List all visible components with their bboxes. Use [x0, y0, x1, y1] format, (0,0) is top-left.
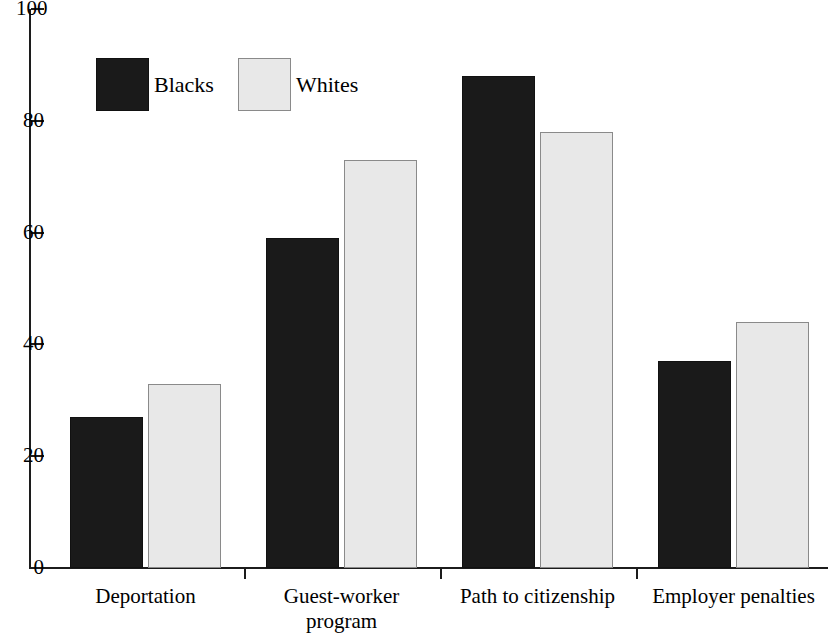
category-label: Deportation [36, 584, 256, 609]
bar-chart: 020406080100 DeportationGuest-worker pro… [0, 0, 834, 638]
bar [736, 322, 809, 568]
legend-entry-blacks: Blacks [96, 58, 214, 111]
bar [462, 76, 535, 568]
legend-entry-whites: Whites [238, 58, 358, 111]
bar [70, 417, 143, 568]
legend-label-blacks: Blacks [154, 74, 214, 96]
legend-swatch-blacks [96, 58, 149, 111]
category-label: Path to citizenship [428, 584, 648, 609]
bar [148, 384, 221, 568]
legend-swatch-whites [238, 58, 291, 111]
chart-legend: Blacks Whites [96, 58, 358, 111]
bar [266, 238, 339, 568]
bar [540, 132, 613, 568]
category-label: Guest-worker program [232, 584, 452, 634]
bar [344, 160, 417, 568]
bar [658, 361, 731, 568]
legend-label-whites: Whites [296, 74, 358, 96]
category-label: Employer penalties [624, 584, 834, 609]
